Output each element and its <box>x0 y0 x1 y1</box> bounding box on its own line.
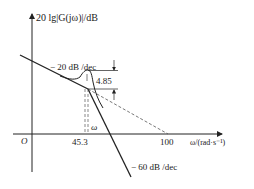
asymptote-low <box>20 55 88 89</box>
y-axis-label: 20 lg|G(jω)|/dB <box>36 12 98 24</box>
slope-high-label: − 60 dB /dec <box>131 162 177 172</box>
x-tick-45-3: 45.3 <box>72 137 88 147</box>
x-axis-label: ω/(rad·s⁻¹) <box>190 138 226 147</box>
origin-label: O <box>21 136 28 146</box>
asymptote-high <box>88 89 131 177</box>
bode-plot: 20 lg|G(jω)|/dB − 20 dB /dec 4.85 ω O 45… <box>0 0 254 189</box>
asymptote-dashed <box>88 89 168 134</box>
slope-low-label: − 20 dB /dec <box>50 62 96 72</box>
omega-label: ω <box>91 122 97 132</box>
x-tick-100: 100 <box>160 137 174 147</box>
peak-label: 4.85 <box>96 76 112 86</box>
